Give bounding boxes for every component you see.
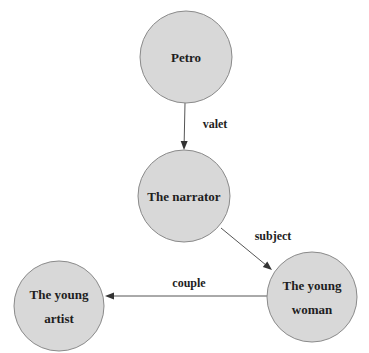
node-petro: Petro	[140, 11, 232, 103]
edge-label-couple: couple	[172, 276, 206, 290]
arrowhead-icon	[263, 262, 272, 270]
node-label: The young	[283, 278, 342, 293]
node-circle	[14, 261, 104, 351]
node-label: woman	[292, 302, 333, 317]
nodes-layer: PetroThe narratorThe youngwomanThe young…	[14, 11, 357, 351]
edge-young-woman-to-young-artist: couple	[105, 276, 267, 300]
edge-label-valet: valet	[203, 117, 228, 131]
edge-line	[184, 103, 185, 141]
node-young-artist: The youngartist	[14, 261, 104, 351]
node-narrator: The narrator	[138, 150, 230, 242]
edge-label-subject: subject	[255, 229, 292, 243]
relationship-diagram: valetsubjectcouple PetroThe narratorThe …	[0, 0, 369, 353]
arrowhead-icon	[105, 293, 114, 300]
arrowhead-icon	[181, 141, 188, 150]
edge-narrator-to-young-woman: subject	[221, 228, 291, 270]
node-label: The young	[30, 287, 89, 302]
node-label: The narrator	[147, 189, 221, 204]
node-young-woman: The youngwoman	[267, 252, 357, 342]
node-circle	[267, 252, 357, 342]
node-label: artist	[44, 311, 74, 326]
edge-petro-to-narrator: valet	[181, 103, 228, 150]
node-label: Petro	[171, 50, 201, 65]
